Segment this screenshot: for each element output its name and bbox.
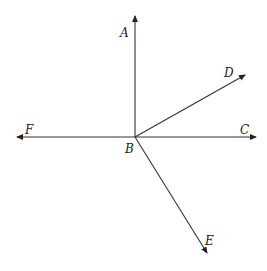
label-b: B	[124, 142, 134, 156]
ray-bd	[135, 75, 245, 137]
label-c: C	[240, 123, 249, 137]
label-d: D	[223, 66, 234, 80]
label-a: A	[119, 26, 129, 40]
label-e: E	[204, 234, 214, 248]
ray-be	[135, 137, 207, 253]
label-f: F	[24, 123, 34, 137]
angle-diagram: A D C F B E	[0, 0, 267, 271]
